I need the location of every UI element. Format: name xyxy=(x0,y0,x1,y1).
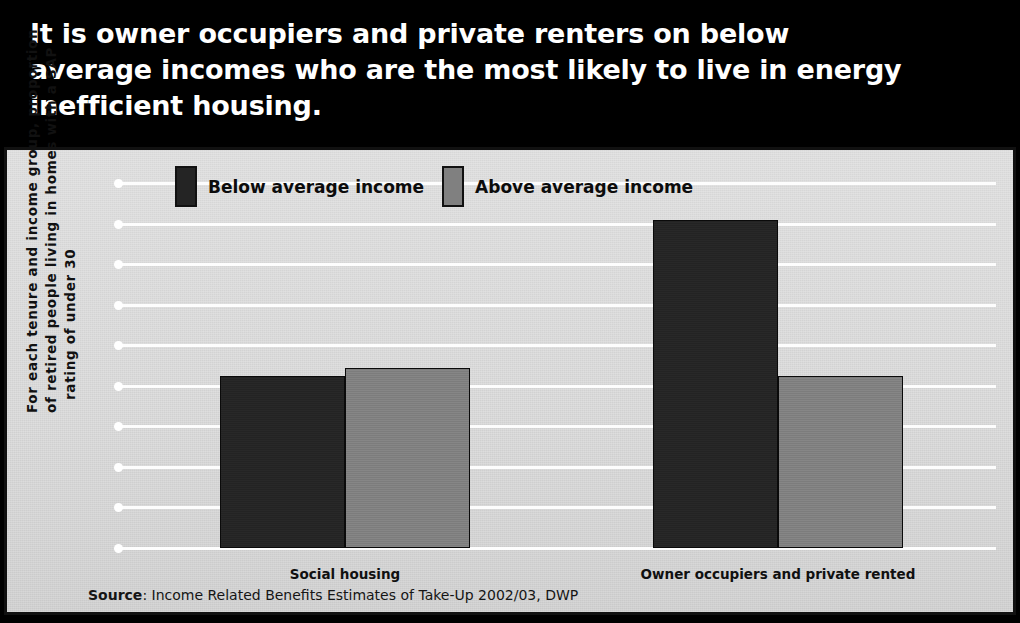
gridline-dot-4 xyxy=(114,463,123,472)
gridline-16 xyxy=(120,223,996,226)
source-text: : Income Related Benefits Estimates of T… xyxy=(142,587,578,603)
infographic-poster: It is owner occupiers and private renter… xyxy=(0,0,1020,623)
gridline-dot-0 xyxy=(114,544,123,553)
gridline-dot-10 xyxy=(114,341,123,350)
gridline-12 xyxy=(120,304,996,307)
gridline-dot-12 xyxy=(114,301,123,310)
source-note: Source: Income Related Benefits Estimate… xyxy=(88,587,578,603)
legend-swatch-icon-below xyxy=(175,166,197,207)
gridline-10 xyxy=(120,344,996,347)
legend-item-above-average-income[interactable]: Above average income xyxy=(442,166,693,207)
y-axis-caption-line-1: For each tenure and income group, propor… xyxy=(24,29,40,413)
legend-label-below: Below average income xyxy=(208,177,424,197)
plot-area: 024681012141618 Social housingOwner occu… xyxy=(120,183,996,548)
headline-banner: It is owner occupiers and private renter… xyxy=(0,0,1020,145)
headline-text: It is owner occupiers and private renter… xyxy=(30,16,990,124)
bar-above-average-income-group-1 xyxy=(345,368,470,548)
legend-item-below-average-income[interactable]: Below average income xyxy=(175,166,424,207)
category-label-2: Owner occupiers and private rented xyxy=(593,566,963,582)
bar-below-average-income-group-2 xyxy=(653,220,778,549)
gridline-dot-16 xyxy=(114,220,123,229)
category-label-1: Social housing xyxy=(160,566,530,582)
y-axis-caption-line-2: of retired people living in homes with a… xyxy=(43,47,59,413)
gridline-dot-18 xyxy=(114,179,123,188)
bar-above-average-income-group-2 xyxy=(778,376,903,548)
gridline-dot-14 xyxy=(114,260,123,269)
legend-label-above: Above average income xyxy=(475,177,693,197)
gridline-dot-8 xyxy=(114,382,123,391)
gridline-14 xyxy=(120,263,996,266)
gridline-dot-2 xyxy=(114,503,123,512)
chart-legend: Below average incomeAbove average income xyxy=(175,166,693,207)
bar-below-average-income-group-1 xyxy=(220,376,345,548)
source-label: Source xyxy=(88,587,142,603)
legend-swatch-icon-above xyxy=(442,166,464,207)
y-axis-caption-line-3: rating of under 30 xyxy=(62,249,78,400)
gridline-dot-6 xyxy=(114,422,123,431)
